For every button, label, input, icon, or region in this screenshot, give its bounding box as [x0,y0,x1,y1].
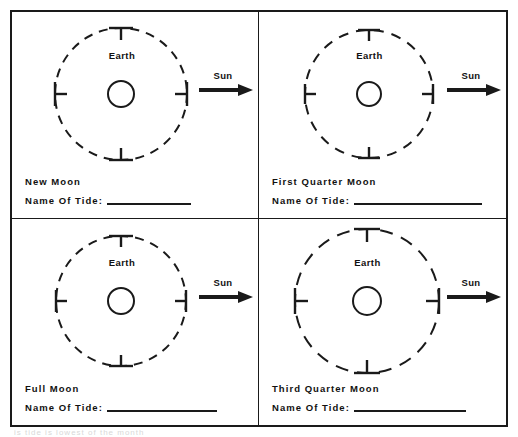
earth-label: Earth [109,257,135,268]
moon-position-tick-south [358,147,380,158]
scan-cutoff-text-sliver: is tide is lowest of the month [14,429,274,436]
moon-position-tick-east [422,84,433,104]
panel-captions-new-moon: New Moon Name Of Tide: [25,176,250,206]
moon-position-tick-east [426,288,439,314]
sun-label: Sun [198,277,256,288]
orbit-path-dashed-circle [56,236,186,366]
panel-full-moon[interactable]: Earth Sun Full Moon Name Of Tide: [12,219,259,426]
worksheet-frame: Earth Sun New Moon Name Of Tide: [10,10,508,427]
panel-third-quarter-moon[interactable]: Earth Sun Third Quarter Moon Name Of Tid… [259,219,506,426]
earth-circle [353,287,381,315]
tide-prompt-label: Name Of Tide: [272,195,350,206]
sun-direction-indicator: Sun [198,70,256,97]
moon-position-tick-west [56,290,67,312]
sun-direction-indicator: Sun [446,277,504,304]
earth-circle [357,82,381,106]
moon-position-tick-west [295,288,308,314]
sun-arrow-icon [446,83,502,97]
moon-phase-name: New Moon [25,176,250,187]
moon-phase-name: First Quarter Moon [272,176,498,187]
earth-circle [108,288,134,314]
panel-captions-third-quarter-moon: Third Quarter Moon Name Of Tide: [272,383,498,413]
tide-prompt-label: Name Of Tide: [272,402,350,413]
moon-phase-name: Third Quarter Moon [272,383,498,394]
tide-answer-row[interactable]: Name Of Tide: [272,195,498,206]
moon-phase-name: Full Moon [25,383,250,394]
panel-captions-first-quarter-moon: First Quarter Moon Name Of Tide: [272,176,498,206]
tide-answer-blank[interactable] [107,410,217,412]
sun-arrow-icon [446,290,502,304]
tide-answer-blank[interactable] [354,203,482,205]
sun-label: Sun [446,70,504,81]
tide-answer-blank[interactable] [107,203,191,205]
moon-position-tick-north [354,229,380,242]
panel-captions-full-moon: Full Moon Name Of Tide: [25,383,250,413]
earth-label: Earth [354,257,380,268]
moon-position-tick-north [109,236,133,247]
sun-arrow-icon [198,83,254,97]
panel-first-quarter-moon[interactable]: Earth Sun First Quarter Moon Name Of Tid… [259,12,506,219]
orbit-path-dashed-circle [55,28,187,160]
sun-arrow-icon [198,290,254,304]
moon-position-tick-north [109,28,133,40]
moon-position-tick-south [109,355,133,366]
moon-position-tick-east [175,290,186,312]
moon-phase-panel-grid: Earth Sun New Moon Name Of Tide: [12,12,506,425]
tide-prompt-label: Name Of Tide: [25,402,103,413]
earth-label: Earth [356,50,382,61]
moon-position-tick-north [358,30,380,41]
orbit-svg-first-quarter-moon [284,14,454,174]
panel-new-moon[interactable]: Earth Sun New Moon Name Of Tide: [12,12,259,219]
sun-label: Sun [446,277,504,288]
earth-circle [108,81,134,107]
earth-label: Earth [109,50,135,61]
moon-position-tick-south [354,360,380,373]
orbit-path-dashed-circle [295,229,439,373]
orbit-svg-full-moon [36,221,206,381]
moon-position-tick-west [55,82,67,106]
tide-answer-row[interactable]: Name Of Tide: [25,195,250,206]
tide-answer-row[interactable]: Name Of Tide: [25,402,250,413]
sun-label: Sun [198,70,256,81]
orbit-svg-third-quarter-moon [277,221,457,381]
tide-prompt-label: Name Of Tide: [25,195,103,206]
tide-answer-row[interactable]: Name Of Tide: [272,402,498,413]
sun-direction-indicator: Sun [446,70,504,97]
moon-position-tick-west [305,84,316,104]
moon-position-tick-east [175,82,187,106]
moon-position-tick-south [109,148,133,160]
orbit-svg-new-moon [36,14,206,174]
tide-answer-blank[interactable] [354,410,466,412]
sun-direction-indicator: Sun [198,277,256,304]
